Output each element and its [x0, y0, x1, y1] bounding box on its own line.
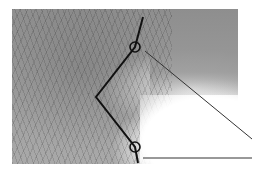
diagram-overlay: [0, 0, 259, 174]
diagonal-line: [145, 51, 252, 139]
bent-line: [96, 17, 143, 163]
